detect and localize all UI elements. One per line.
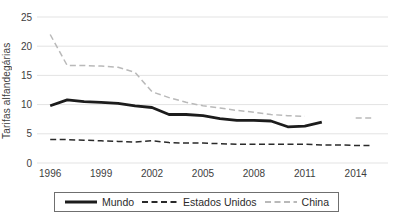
plot-area: 05101520251996199920022005200820112014 [0,0,393,190]
y-tick-label-10: 10 [21,99,33,110]
legend-item-mundo: Mundo [64,196,134,208]
legend-label-mundo: Mundo [102,196,134,208]
series-line-china [50,35,373,119]
x-tick-label-2014: 2014 [345,168,368,179]
estados-unidos-line-swatch-icon [141,198,179,206]
legend-label-china: China [302,196,329,208]
x-tick-label-2008: 2008 [243,168,266,179]
legend: Mundo Estados Unidos China [0,192,393,212]
y-tick-label-15: 15 [21,70,33,81]
china-line-swatch-icon [264,198,298,206]
x-tick-label-1999: 1999 [90,168,113,179]
series-line-mundo [50,100,322,127]
y-tick-label-20: 20 [21,41,33,52]
mundo-line-swatch-icon [64,198,98,206]
series-line-estados-unidos [50,140,373,146]
y-tick-label-5: 5 [26,128,32,139]
legend-item-china: China [264,196,329,208]
y-tick-label-0: 0 [26,158,32,169]
y-tick-label-25: 25 [21,12,33,23]
x-tick-label-2011: 2011 [294,168,316,179]
legend-box: Mundo Estados Unidos China [54,192,339,212]
x-tick-label-2002: 2002 [141,168,164,179]
x-tick-label-1996: 1996 [39,168,62,179]
legend-label-estados-unidos: Estados Unidos [183,196,257,208]
legend-item-estados-unidos: Estados Unidos [141,196,257,208]
x-tick-label-2005: 2005 [192,168,215,179]
tariffs-line-chart: Tarifas alfandegárias 051015202519961999… [0,0,393,222]
